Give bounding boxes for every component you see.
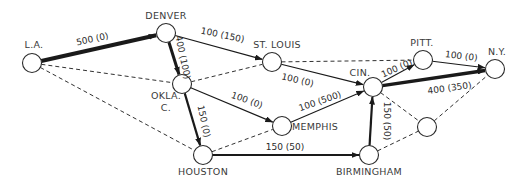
- node-label-pitt: PITT.: [410, 37, 433, 48]
- node-pitt: [414, 51, 433, 70]
- node-label-la: L.A.: [25, 39, 44, 50]
- edge-stlouis-pitt: [281, 60, 413, 62]
- edge-label-birmingham-cin: 150 (50): [382, 102, 392, 141]
- labels-layer: 500 (0)100 (150)400 (100)100 (0)150 (0)1…: [25, 10, 507, 177]
- network-flow-diagram: 500 (0)100 (150)400 (100)100 (0)150 (0)1…: [0, 0, 515, 187]
- node-label-memphis: MEMPHIS: [292, 121, 338, 132]
- node-cin: [364, 78, 383, 97]
- edge-label-stlouis-cin: 100 (0): [281, 72, 315, 89]
- node-label-houston: HOUSTON: [178, 166, 228, 177]
- node-label-stlouis: ST. LOUIS: [253, 39, 301, 50]
- node-birmingham: [360, 146, 379, 165]
- edge-okla-houston-arrow: [185, 93, 200, 145]
- node-label2-okla: C.: [161, 102, 171, 113]
- edge-label-denver-stlouis: 100 (150): [200, 26, 245, 45]
- node-houston: [194, 146, 213, 165]
- node-denver: [157, 24, 176, 43]
- node-label-denver: DENVER: [145, 10, 186, 21]
- node-unlabeled: [418, 118, 437, 137]
- node-label-ny: N.Y.: [488, 46, 506, 57]
- edge-birmingham-cin-arrow: [370, 97, 373, 146]
- edge-okla-stlouis: [191, 64, 262, 81]
- node-stlouis: [263, 53, 282, 72]
- edge-pitt-ny-arrow: [432, 61, 485, 68]
- node-label-cin: CIN.: [350, 67, 371, 78]
- edge-label-okla-memphis: 100 (0): [230, 90, 264, 111]
- edge-la-okla: [41, 64, 172, 82]
- node-la: [23, 54, 42, 73]
- node-ny: [486, 60, 505, 79]
- edge-label-okla-houston: 150 (0): [196, 104, 213, 138]
- node-label-okla: OKLA.: [151, 90, 181, 101]
- edge-houston-memphis: [212, 129, 273, 151]
- edge-label-denver-okla: 400 (100): [173, 35, 192, 80]
- node-memphis: [273, 117, 292, 136]
- edge-label-cin-ny: 400 (350): [427, 80, 472, 96]
- edge-label-pitt-ny: 100 (0): [444, 49, 478, 63]
- edge-label-houston-birmingham: 150 (50): [266, 142, 305, 152]
- node-label-birmingham: BIRMINGHAM: [336, 166, 402, 177]
